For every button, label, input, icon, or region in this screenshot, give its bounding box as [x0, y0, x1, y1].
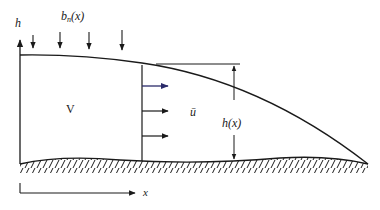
velocity-arrows — [142, 86, 168, 136]
mean-velocity-label: ū — [190, 106, 196, 118]
thickness-dimension — [156, 64, 240, 159]
accumulation-label-arg: (x) — [71, 9, 84, 23]
bed-ground — [20, 157, 368, 173]
thickness-label: h(x) — [222, 117, 241, 129]
h-axis-label: h — [15, 17, 21, 29]
x-axis-label: x — [143, 187, 148, 198]
accumulation-label: bn(x) — [61, 10, 84, 24]
volume-label: V — [66, 103, 75, 115]
accumulation-arrows — [33, 30, 122, 50]
